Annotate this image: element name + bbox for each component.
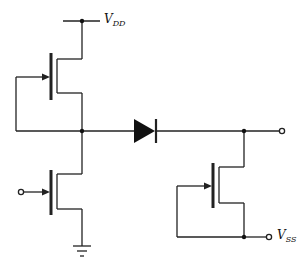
- diode-icon: [134, 119, 155, 143]
- output-terminal[interactable]: [279, 128, 284, 133]
- vss-terminal[interactable]: [266, 234, 271, 239]
- ground-icon: [73, 246, 91, 256]
- junction-dots: [80, 19, 246, 239]
- vss-label-sub: SS: [286, 235, 297, 244]
- arrow-icon: [204, 183, 212, 190]
- arrow-icon: [42, 74, 50, 81]
- bottom-transistor: [24, 131, 82, 246]
- vdd-label-sub: DD: [113, 19, 126, 28]
- circuit-schematic: [0, 0, 306, 271]
- right-transistor: [177, 131, 244, 237]
- vdd-label-main: V: [104, 12, 113, 26]
- input-terminal[interactable]: [18, 189, 23, 194]
- vdd-label: VDD: [104, 13, 126, 28]
- arrow-icon: [42, 189, 50, 196]
- top-transistor: [16, 53, 82, 131]
- vss-label-main: V: [277, 228, 286, 242]
- vss-label: VSS: [277, 229, 297, 244]
